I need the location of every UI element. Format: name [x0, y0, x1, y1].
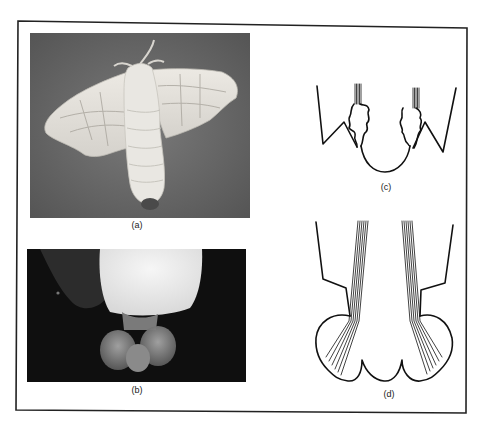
moth-abdomen-tip	[141, 198, 159, 210]
panel-d-label: (d)	[384, 389, 395, 399]
d-right-fibers	[402, 221, 442, 374]
panel-a-photo	[30, 33, 250, 218]
c-bottom-curve	[361, 146, 410, 172]
d-right-wall	[420, 225, 453, 316]
d-left-wall	[316, 222, 350, 316]
panel-c-diagram	[317, 84, 456, 172]
c-left-wall	[317, 86, 357, 147]
panel-c-label: (c)	[381, 182, 392, 192]
figure-canvas	[0, 0, 477, 426]
panel-a-label: (a)	[132, 220, 143, 230]
panel-d-diagram	[316, 221, 453, 381]
panel-b-photo	[27, 249, 246, 382]
panel-b-label: (b)	[132, 385, 143, 395]
c-right-fibers	[413, 88, 419, 108]
moth-fur-white	[99, 249, 202, 315]
c-left-fringe	[349, 104, 369, 147]
c-right-fringe	[400, 108, 421, 148]
c-left-fibers	[355, 84, 361, 104]
c-right-wall	[413, 88, 456, 152]
